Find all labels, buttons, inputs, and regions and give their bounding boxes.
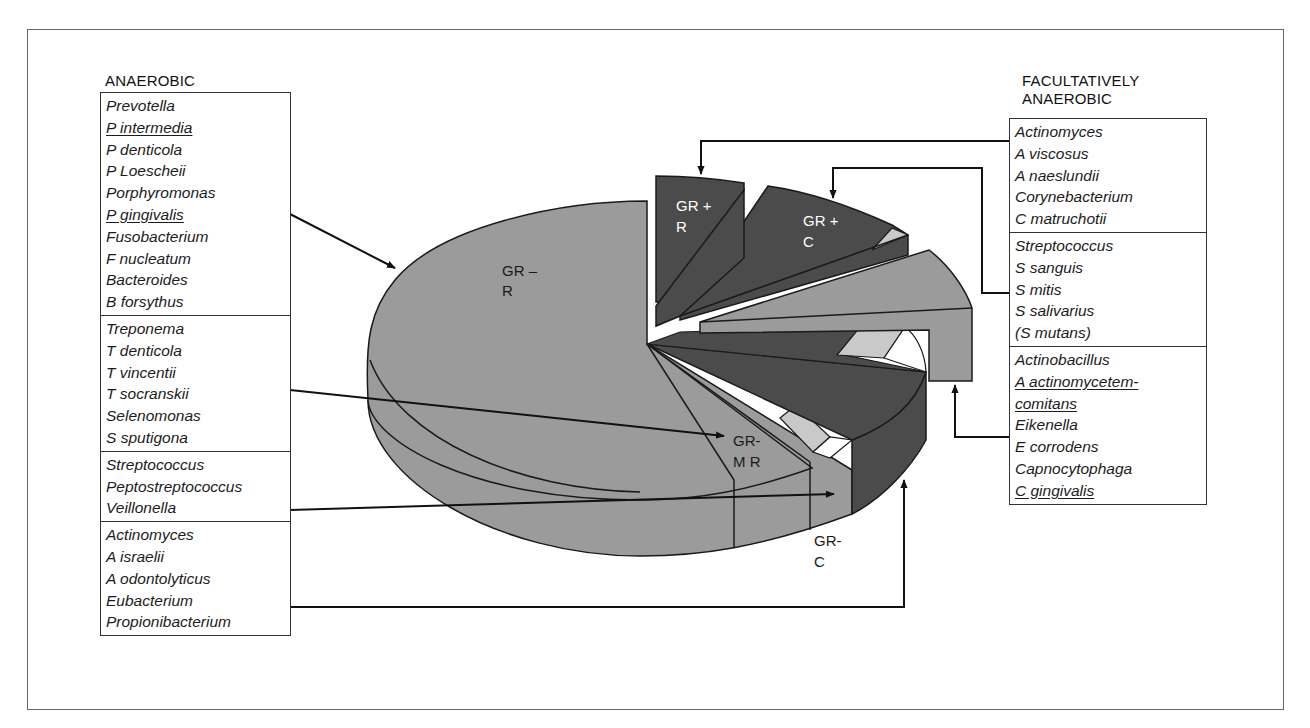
list-item: comitans (1015, 393, 1201, 415)
list-item: P gingivalis (106, 204, 285, 226)
list-item: Actinobacillus (1015, 349, 1201, 371)
list-item: Capnocytophaga (1015, 458, 1201, 480)
label-gr-neg-c-1: GR- (814, 532, 842, 549)
label-gr-pos-r-2: R (676, 218, 687, 235)
list-item: A viscosus (1015, 143, 1201, 165)
list-item: S mitis (1015, 279, 1201, 301)
list-item: S sputigona (106, 427, 285, 449)
list-item: F nucleatum (106, 248, 285, 270)
list-item: P intermedia (106, 117, 285, 139)
list-item: Porphyromonas (106, 182, 285, 204)
list-item: A actinomycetem- (1015, 371, 1201, 393)
list-item: Fusobacterium (106, 226, 285, 248)
list-item: C matruchotii (1015, 208, 1201, 230)
list-item: Prevotella (106, 95, 285, 117)
list-item: P Loescheii (106, 160, 285, 182)
anaerobic-group-gr-neg-c: Streptococcus Peptostreptococcus Veillon… (101, 451, 290, 521)
list-item: E corrodens (1015, 436, 1201, 458)
list-item: S salivarius (1015, 300, 1201, 322)
facultative-list-box: Actinomyces A viscosus A naeslundii Cory… (1009, 118, 1207, 505)
list-item: T vincentii (106, 362, 285, 384)
list-item: C gingivalis (1015, 480, 1201, 502)
list-item: A naeslundii (1015, 165, 1201, 187)
list-item: S sanguis (1015, 257, 1201, 279)
label-gr-pos-c-1: GR + (803, 212, 839, 229)
label-gr-neg-c-2: C (814, 553, 825, 570)
label-gr-neg-mr-1: GR- (733, 432, 761, 449)
anaerobic-group-gr-pos-r: Actinomyces A israelii A odontolyticus E… (101, 521, 290, 635)
label-gr-pos-r-1: GR + (676, 197, 712, 214)
arrow-to-grey-slice (955, 385, 1010, 437)
anaerobic-group-gr-neg-mr: Treponema T denticola T vincentii T socr… (101, 315, 290, 451)
list-item: T socranskii (106, 383, 285, 405)
list-item: Veillonella (106, 497, 285, 519)
list-item: Propionibacterium (106, 611, 285, 633)
label-gr-neg-r-1: GR – (502, 262, 538, 279)
list-item: A israelii (106, 546, 285, 568)
arrow-to-gr-neg-r (290, 214, 395, 268)
arrow-to-gr-pos-r (701, 141, 1010, 174)
list-item: (S mutans) (1015, 322, 1201, 344)
list-item: Treponema (106, 318, 285, 340)
list-item: Eikenella (1015, 414, 1201, 436)
list-item: Streptococcus (1015, 235, 1201, 257)
heading-anaerobic: ANAEROBIC (105, 72, 195, 90)
list-item: Peptostreptococcus (106, 476, 285, 498)
list-item: Bacteroides (106, 269, 285, 291)
list-item: Eubacterium (106, 590, 285, 612)
heading-facultative-line1: FACULTATIVELY (1022, 72, 1139, 90)
list-item: Streptococcus (106, 454, 285, 476)
facultative-group-gr-pos-c: Streptococcus S sanguis S mitis S saliva… (1010, 232, 1206, 346)
heading-facultative: FACULTATIVELY ANAEROBIC (1022, 72, 1139, 108)
list-item: B forsythus (106, 291, 285, 313)
label-gr-neg-r-2: R (502, 282, 513, 299)
list-item: Actinomyces (106, 524, 285, 546)
list-item: P denticola (106, 139, 285, 161)
anaerobic-group-gr-neg-r: Prevotella P intermedia P denticola P Lo… (101, 93, 290, 315)
list-item: A odontolyticus (106, 568, 285, 590)
list-item: Actinomyces (1015, 121, 1201, 143)
list-item: T denticola (106, 340, 285, 362)
heading-facultative-line2: ANAEROBIC (1022, 90, 1139, 108)
list-item: Selenomonas (106, 405, 285, 427)
label-gr-neg-mr-2: M R (733, 453, 761, 470)
anaerobic-list-box: Prevotella P intermedia P denticola P Lo… (100, 92, 291, 636)
list-item: Corynebacterium (1015, 186, 1201, 208)
label-gr-pos-c-2: C (803, 233, 814, 250)
facultative-group-gr-pos-r: Actinomyces A viscosus A naeslundii Cory… (1010, 119, 1206, 232)
facultative-group-gr-neg-r: Actinobacillus A actinomycetem- comitans… (1010, 346, 1206, 504)
